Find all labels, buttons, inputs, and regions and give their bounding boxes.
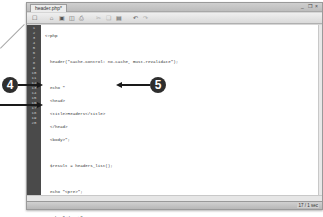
save-icon[interactable]: ▣ [58,15,65,22]
code-line: $result = headers_list(); [45,164,318,169]
minimize-button[interactable]: _ [300,4,305,9]
code-line: <title>Headers</title> [45,112,318,117]
restore-button[interactable]: ❐ [307,4,312,9]
code-line [45,47,318,52]
callout-5-arrow [122,84,150,86]
code-line [45,177,318,182]
close-button[interactable]: × [314,4,319,9]
status-bar: 17 / 1 sec [27,201,322,209]
new-file-icon[interactable]: ☐ [31,15,38,22]
cut-icon[interactable]: ✂ [95,15,102,22]
code-line: </head> [45,125,318,130]
code-line: <?php [45,34,318,39]
save-all-icon[interactable]: ◫ [68,15,75,22]
callout-5: 5 [150,77,166,93]
code-line [45,151,318,156]
callout-arrow-lower-head [37,102,43,108]
print-icon[interactable]: ⎙ [78,15,85,22]
code-line [45,73,318,78]
screenshot-stage: header.php* _ ❐ × ☐ ⌂ ▣ ◫ ⎙ ✂ ❏ ▤ ↶ ↷ 1 [0,0,323,217]
open-icon[interactable]: ⌂ [48,15,55,22]
code-editor[interactable]: 1 2 3 4 5 6 7 8 9 10 11 12 13 14 15 16 1… [27,25,318,195]
callout-4: 4 [2,77,18,93]
callout-arrow-lower [0,104,38,106]
line-number-gutter: 1 2 3 4 5 6 7 8 9 10 11 12 13 14 15 16 1… [27,25,41,195]
code-line: <head> [45,99,318,104]
copy-icon[interactable]: ❏ [105,15,112,22]
code-line: echo "</pre>"; [45,216,318,217]
callout-4-arrow [18,84,38,86]
undo-icon[interactable]: ↶ [132,15,139,22]
callout-5-arrowhead [116,82,122,88]
code-area[interactable]: <?php header("Cache-Control: no-cache, m… [41,25,318,195]
file-tab[interactable]: header.php* [30,4,67,12]
paste-icon[interactable]: ▤ [115,15,122,22]
window-controls: _ ❐ × [300,4,319,9]
editor-window: header.php* _ ❐ × ☐ ⌂ ▣ ◫ ⎙ ✂ ❏ ▤ ↶ ↷ 1 [26,2,323,210]
redo-icon[interactable]: ↷ [142,15,149,22]
vertical-scrollbar[interactable] [318,25,322,195]
callout-4-arrowhead [37,82,43,88]
title-bar: header.php* _ ❐ × [27,3,322,12]
code-line: echo " [45,86,318,91]
status-text: 17 / 1 sec [297,203,319,208]
code-line: header("Cache-Control: no-cache, must-re… [45,60,318,65]
toolbar: ☐ ⌂ ▣ ◫ ⎙ ✂ ❏ ▤ ↶ ↷ [27,13,322,24]
leader-line [0,24,25,49]
line-number: 20 [27,121,41,126]
code-line: <body>"; [45,138,318,143]
